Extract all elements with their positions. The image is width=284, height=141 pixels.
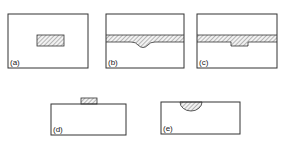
panel-label: (b) [108,58,118,67]
panel-e: (e) [161,102,240,134]
diagram-canvas: (a) (b) (c) (d) (e) [0,0,284,141]
panel-c: (c) [197,14,277,68]
panel-label: (e) [163,124,173,133]
layer-band-with-bulge [106,35,184,48]
panel-label: (c) [199,58,209,67]
panel-d: (d) [51,98,126,135]
panel-a: (a) [8,14,88,68]
semicircular-region [180,102,202,111]
panel-b: (b) [106,14,184,68]
panel-label: (a) [10,58,20,67]
panel-label: (d) [53,125,63,134]
deposited-block [81,98,97,104]
embedded-region [37,35,64,46]
layer-band-with-notch [197,35,277,46]
